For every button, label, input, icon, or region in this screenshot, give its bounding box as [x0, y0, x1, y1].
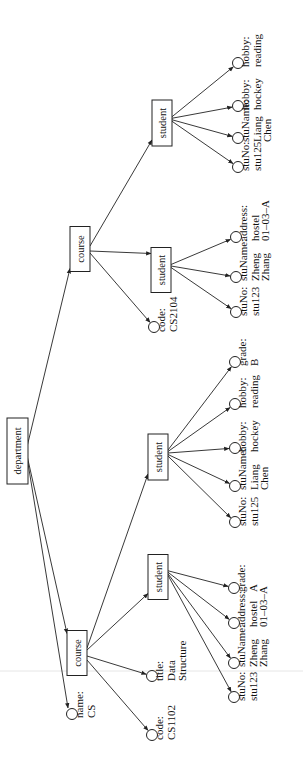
leaf-c1-s1-0-key: stuNo:: [235, 672, 247, 701]
leaf-c2-s1-1-value-2: Zhang: [259, 252, 271, 281]
edge-c2-s2-2: [172, 107, 232, 118]
leaf-c2-s2-3-key: hobby:: [239, 36, 251, 67]
leaf-code-cs1102-value: CS1102: [165, 705, 177, 740]
edge-c2-s2-3: [172, 67, 233, 117]
leaf-c1-s2-3-key: hobby:: [236, 377, 248, 408]
leaf-c1-s2-1-value-2: Chen: [258, 466, 270, 490]
course-node-cs2104[interactable]: course: [70, 227, 90, 272]
student-node-c2-s1[interactable]: student: [151, 248, 171, 293]
edge-department-name: [26, 451, 68, 708]
department-node[interactable]: department: [7, 418, 28, 484]
leaf-code-cs2104-value: CS2104: [167, 296, 179, 332]
leaf-c1-s1-3-key: grade:: [235, 565, 247, 592]
leaf-c1-s1-2-key: address:: [235, 591, 247, 627]
leaf-title-key: title:: [153, 661, 165, 681]
edge-c1-s1-2: [168, 572, 229, 619]
edge-course2-code: [90, 253, 150, 322]
leaf-c2-s2-3-value: reading: [251, 34, 263, 67]
edge-department-course1: [26, 451, 67, 634]
leaf-code-cs2104-key: code:: [155, 308, 167, 332]
edge-c2-s1-0: [171, 268, 231, 309]
student-node-c1-s1[interactable]: student: [148, 555, 168, 600]
edge-c1-s2-3: [168, 407, 230, 451]
course-node-cs1102[interactable]: course: [67, 631, 87, 676]
leaf-c1-s2-0-value: stu125: [248, 496, 260, 526]
student-node-c1-s1-label: student: [153, 562, 164, 592]
edge-c1-s2-1: [168, 455, 230, 484]
leaf-code-cs1102-key: code:: [153, 716, 165, 740]
leaf-c2-s1-0-value: stu123: [249, 286, 261, 316]
leaf-c2-s2-0-key: stuNo:: [239, 142, 251, 171]
edge-c1-s2-0: [168, 456, 231, 518]
course-node-cs1102-label: course: [72, 639, 83, 667]
edge-c2-s1-1: [171, 266, 230, 276]
leaf-c1-s1-1-value-2: Zhang: [257, 638, 269, 667]
leaf-c1-s2-1-key: stuName:: [236, 448, 248, 490]
edge-department-course2: [26, 269, 70, 452]
edge-c2-s2-0: [172, 121, 233, 163]
leaf-c1-s2-4-key: grade:: [236, 339, 248, 366]
edge-c2-s2-1: [172, 120, 232, 137]
leaf-c1-s1-0-value: stu123: [247, 671, 259, 701]
leaf-name-value: CS: [85, 705, 97, 718]
leaf-c1-s2-2-key: hobby:: [236, 421, 248, 452]
edge-course2-student2: [90, 140, 152, 246]
leaf-c2-s2-2-key: hobby:: [239, 79, 251, 110]
leaf-c2-s1-2-key: address:: [237, 205, 249, 241]
leaf-c1-s2-4-value: B: [248, 359, 260, 366]
edge-c1-s2-2: [168, 448, 229, 453]
department-node-label: department: [12, 427, 23, 474]
edge-course2-student1: [90, 251, 151, 254]
student-node-c2-s2-label: student: [157, 108, 168, 138]
student-node-c1-s2-label: student: [153, 442, 164, 472]
leaf-c2-s1-1-key: stuName:: [237, 239, 249, 281]
edge-course1-title: [87, 656, 146, 674]
leaf-c1-s1-1-key: stuName:: [235, 625, 247, 667]
student-node-c1-s2[interactable]: student: [148, 434, 168, 480]
leaf-c1-s2-0-key: stuNo:: [236, 497, 248, 526]
leaf-c1-s1-3-value: A: [247, 584, 259, 592]
edge-c1-s2-4: [168, 367, 231, 450]
leaf-c2-s1-0-key: stuNo:: [237, 287, 249, 316]
course-node-cs2104-label: course: [75, 235, 86, 263]
leaf-title-value-2: Structure: [176, 641, 188, 681]
leaf-c2-s2-0-value: stu125: [251, 141, 263, 171]
leaf-c2-s1-2-value-2: 01–03–A: [259, 200, 271, 241]
edge-c2-s1-2: [171, 239, 230, 264]
leaf-c1-s2-3-value: reading: [248, 375, 260, 408]
leaf-c2-s2-1-value-2: Chen: [261, 118, 273, 142]
tree-diagram: departmentname:CScoursecoursetitle:DataS…: [0, 0, 303, 768]
edge-c1-s1-3: [168, 571, 228, 587]
student-node-c2-s1-label: student: [156, 255, 167, 285]
leaf-c1-s2-2-value: hockey: [248, 420, 260, 452]
leaf-c2-s2-2-value: hockey: [251, 78, 263, 110]
leaf-name-key: name:: [73, 691, 85, 718]
student-node-c2-s2[interactable]: student: [152, 100, 172, 146]
